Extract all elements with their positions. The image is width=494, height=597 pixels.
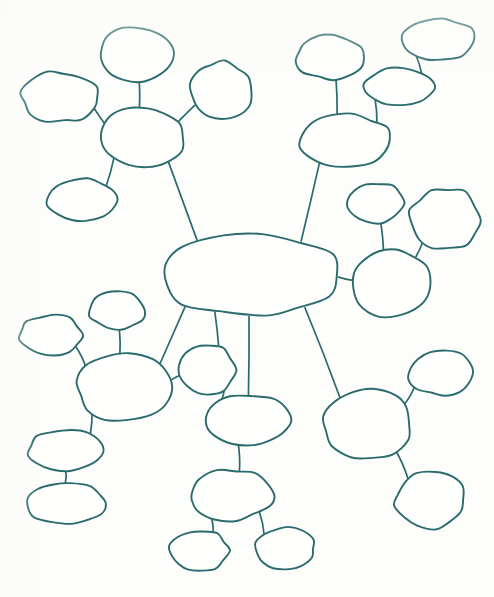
edge-br-hub-to-br-up [404,385,415,405]
edge-tr-hub-to-tr-mid [375,100,377,122]
node-bubble-bl-c1[interactable] [28,430,104,471]
bubble-outline-bl-top[interactable] [89,291,145,330]
mind-map-canvas [0,0,494,597]
node-bubble-tl-left[interactable] [20,71,98,122]
node-bubble-tr-up[interactable] [296,34,364,80]
node-bubble-tl-top[interactable] [101,27,174,82]
edge-tr-hub-to-tr-up [336,78,337,114]
node-bubble-r-upright[interactable] [409,189,481,248]
bubble-outline-bm-small[interactable] [179,345,237,394]
node-bubble-bm-2[interactable] [191,470,274,522]
bubble-outline-tl-top[interactable] [101,27,174,82]
node-bubble-center[interactable] [164,233,337,315]
node-bubble-tr-mid[interactable] [363,68,435,105]
edge-center-to-tr-hub [301,161,320,241]
bubble-outline-bl-c2[interactable] [27,483,106,524]
node-bubble-bm-l[interactable] [169,531,230,570]
bubble-outline-bm-l[interactable] [169,531,230,570]
node-bubble-r-up[interactable] [347,184,404,224]
bubble-outline-bl-left[interactable] [19,315,83,356]
edge-tl-hub-to-tl-top [139,81,140,108]
bubble-outline-br-down[interactable] [394,472,464,530]
node-bubble-br-down[interactable] [394,472,464,530]
bubble-outline-tr-mid[interactable] [363,68,435,105]
bubble-outline-tr-far[interactable] [402,18,475,60]
bubble-outline-tl-hub[interactable] [101,108,184,168]
node-bubble-br-up[interactable] [408,351,473,396]
bubble-outline-bl-hub[interactable] [76,353,172,421]
node-bubble-tr-far[interactable] [402,18,475,60]
node-bubble-bl-c2[interactable] [27,483,106,524]
node-bubble-bl-left[interactable] [19,315,83,356]
edge-center-to-bm-1 [248,316,249,395]
bubble-outline-r-up[interactable] [347,184,404,224]
edge-center-to-br-hub [305,308,340,398]
edge-bl-hub-to-bl-top [119,330,120,356]
bubble-outline-r-upright[interactable] [409,189,481,248]
bubble-outline-bm-1[interactable] [206,396,292,446]
edge-center-to-tl-hub [168,160,198,243]
edge-br-hub-to-br-down [395,450,408,479]
node-bubble-bl-top[interactable] [89,291,145,330]
edge-r-hub-to-r-up [381,222,384,249]
node-bubble-tl-right[interactable] [190,60,252,119]
bubble-outline-bl-c1[interactable] [28,430,104,471]
mind-map-diagram [0,0,494,597]
edge-tl-hub-to-tl-low [107,159,114,185]
edge-bm-2-to-bm-r [260,512,265,534]
bubble-outline-br-up[interactable] [408,351,473,396]
edge-center-to-r-hub [339,277,353,280]
bubble-outline-r-hub[interactable] [353,249,431,317]
node-bubble-r-hub[interactable] [353,249,431,317]
node-bubble-tl-hub[interactable] [101,108,184,168]
bubble-outline-bm-2[interactable] [191,470,274,522]
bubble-outline-tr-up[interactable] [296,34,364,80]
edge-center-to-bm-small [215,312,219,347]
node-bubble-br-hub[interactable] [323,389,410,459]
bubble-outline-center[interactable] [164,233,337,315]
edge-bm-1-to-bm-2 [238,444,239,471]
bubble-outline-tl-left[interactable] [20,71,98,122]
edge-r-hub-to-r-upright [416,242,423,256]
bubble-outline-tl-right[interactable] [190,60,252,119]
edge-tl-hub-to-tl-right [178,105,195,122]
node-bubble-bm-1[interactable] [206,396,292,446]
node-bubble-bm-small[interactable] [179,345,237,394]
edge-tl-hub-to-tl-left [94,108,105,124]
bubble-outline-br-hub[interactable] [323,389,410,459]
node-layer [19,18,481,570]
node-bubble-bl-hub[interactable] [76,353,172,421]
